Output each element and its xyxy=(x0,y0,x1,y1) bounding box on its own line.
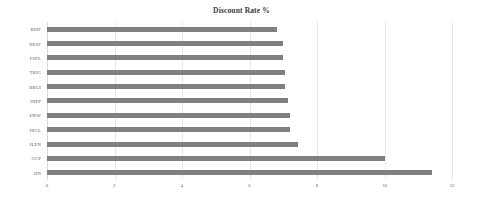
y-axis-label-inpp: INPP xyxy=(30,99,41,104)
bar-row xyxy=(47,79,452,93)
bar-hicl xyxy=(47,127,290,132)
x-axis-tick-0: 0 xyxy=(46,183,48,188)
y-axis-label-3in: 3IN xyxy=(33,170,41,175)
x-axis-tick-8: 8 xyxy=(316,183,318,188)
bar-row xyxy=(47,137,452,151)
bar-row xyxy=(47,22,452,36)
bar-trig xyxy=(47,70,285,75)
bar-row xyxy=(47,94,452,108)
y-axis-label-jlen: JLEN xyxy=(29,142,41,147)
bar-bbgi xyxy=(47,84,285,89)
gridline-12 xyxy=(452,22,453,180)
y-axis-label-fsfl: FSFL xyxy=(30,55,41,60)
y-axis-label-hicl: HICL xyxy=(29,127,41,132)
x-axis-tick-4: 4 xyxy=(181,183,183,188)
y-axis-label-gcp: GCP xyxy=(31,156,41,161)
x-axis-tick-2: 2 xyxy=(113,183,115,188)
y-axis-label-ukw: UKW xyxy=(29,113,41,118)
bar-3in xyxy=(47,170,432,175)
y-axis-label-bsif: BSIF xyxy=(30,27,41,32)
bar-inpp xyxy=(47,98,288,103)
y-axis-label-bbgi: BBGI xyxy=(29,84,41,89)
y-axis-label-nesf: NESF xyxy=(29,41,41,46)
x-axis-tick-6: 6 xyxy=(248,183,250,188)
bar-row xyxy=(47,151,452,165)
bar-jlen xyxy=(47,142,298,147)
bar-row xyxy=(47,123,452,137)
chart-title: Discount Rate % xyxy=(0,6,483,15)
y-axis-label-trig: TRIG xyxy=(29,70,41,75)
discount-rate-bar-chart: Discount Rate % BSIFNESFFSFLTRIGBBGIINPP… xyxy=(0,0,483,201)
x-axis-tick-10: 10 xyxy=(382,183,387,188)
plot-area xyxy=(47,22,452,180)
bar-row xyxy=(47,51,452,65)
bar-row xyxy=(47,108,452,122)
bar-bsif xyxy=(47,27,277,32)
bar-row xyxy=(47,166,452,180)
x-axis-tick-12: 12 xyxy=(450,183,455,188)
bar-gcp xyxy=(47,156,385,161)
bar-row xyxy=(47,65,452,79)
bar-row xyxy=(47,36,452,50)
bar-fsfl xyxy=(47,55,283,60)
x-axis-tick-labels: 024681012 xyxy=(47,183,452,197)
bars-container xyxy=(47,22,452,180)
bar-ukw xyxy=(47,113,290,118)
y-axis-category-labels: BSIFNESFFSFLTRIGBBGIINPPUKWHICLJLENGCP3I… xyxy=(0,22,45,180)
bar-nesf xyxy=(47,41,283,46)
